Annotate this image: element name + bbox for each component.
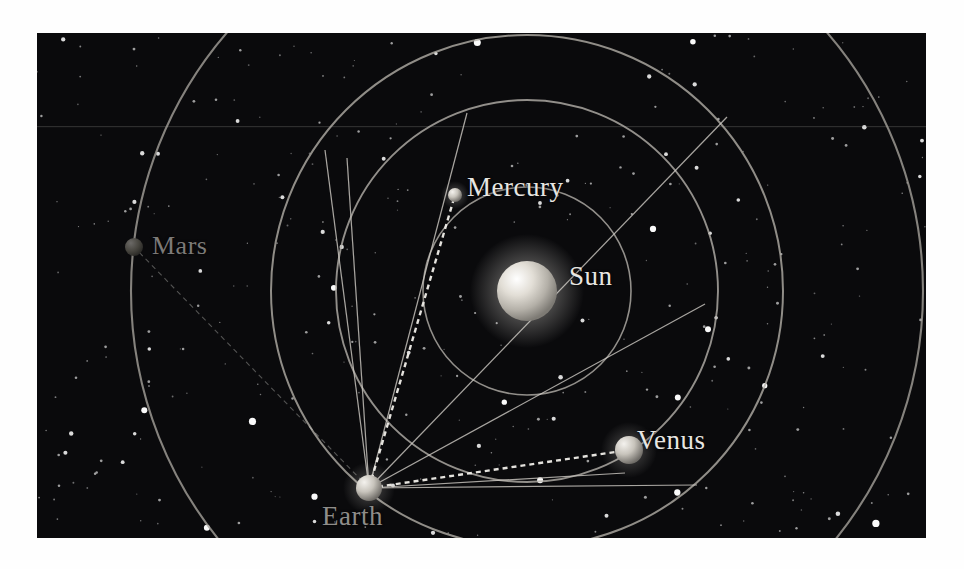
- sky-panel: Sun Mercury Venus Earth Mars: [37, 33, 926, 538]
- figure-stage: Sun Mercury Venus Earth Mars: [0, 0, 964, 569]
- orbit-diagram-svg: [37, 33, 926, 538]
- scanline-artifact: [37, 126, 926, 127]
